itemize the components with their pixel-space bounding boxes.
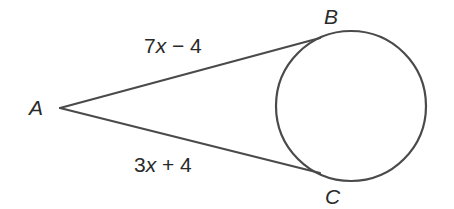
constant: − 4 [166, 34, 202, 57]
segment-ac-length-label: 3x + 4 [134, 154, 192, 175]
coef: 7 [144, 34, 156, 57]
variable: x [156, 34, 167, 57]
circle [276, 31, 426, 181]
point-label-a: A [29, 97, 43, 118]
coef: 3 [134, 153, 146, 176]
constant: + 4 [156, 153, 192, 176]
variable: x [146, 153, 157, 176]
point-label-b: B [324, 6, 338, 27]
segment-ab-length-label: 7x − 4 [144, 35, 202, 56]
point-label-c: C [325, 186, 340, 207]
geometry-diagram [0, 0, 454, 209]
